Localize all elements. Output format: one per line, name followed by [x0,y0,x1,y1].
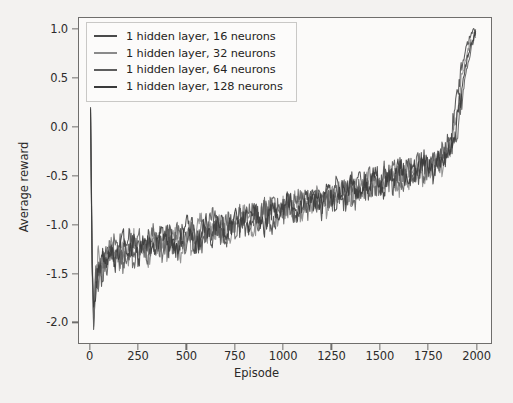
legend-label-128-neurons: 1 hidden layer, 128 neurons [126,80,283,93]
x-tick-mark [89,344,90,350]
x-tick-mark [379,344,380,350]
legend-item: 1 hidden layer, 16 neurons [94,28,289,45]
x-tick-label: 2000 [447,349,507,363]
legend-item: 1 hidden layer, 128 neurons [94,78,289,95]
legend-swatch-32-neurons [94,52,117,54]
y-axis: 1.00.50.0-0.5-1.0-1.5-2.0 [0,0,78,403]
legend-swatch-128-neurons [94,86,117,88]
y-tick-label: 1.0 [8,22,68,36]
legend: 1 hidden layer, 16 neurons 1 hidden laye… [86,22,297,102]
figure-canvas: 1.00.50.0-0.5-1.0-1.5-2.0 02505007501000… [0,0,513,403]
legend-label-64-neurons: 1 hidden layer, 64 neurons [126,63,276,76]
x-tick-mark [428,344,429,350]
x-tick-mark [234,344,235,350]
x-axis-label: Episode [0,366,513,380]
legend-item: 1 hidden layer, 64 neurons [94,62,289,79]
y-tick-label: -2.0 [8,315,68,329]
x-tick-mark [476,344,477,350]
y-axis-label: Average reward [17,77,31,297]
legend-item: 1 hidden layer, 32 neurons [94,45,289,62]
legend-label-32-neurons: 1 hidden layer, 32 neurons [126,47,276,60]
legend-label-16-neurons: 1 hidden layer, 16 neurons [126,30,276,43]
legend-swatch-16-neurons [94,35,117,37]
x-tick-mark [282,344,283,350]
legend-swatch-64-neurons [94,69,117,71]
x-tick-mark [331,344,332,350]
x-tick-mark [137,344,138,350]
x-tick-mark [186,344,187,350]
